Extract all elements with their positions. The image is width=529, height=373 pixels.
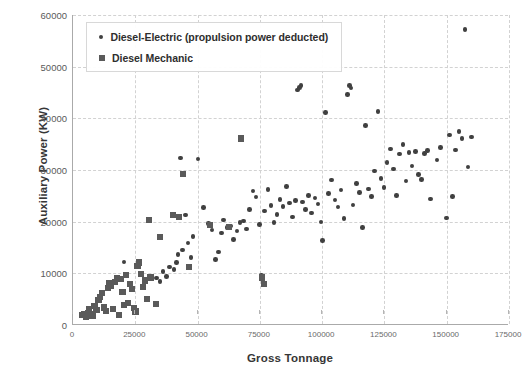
data-point-series-0 [319, 220, 324, 225]
gridline-horizontal [73, 170, 508, 171]
data-point-series-0 [290, 215, 295, 220]
data-point-series-0 [241, 219, 246, 224]
data-point-series-0 [191, 234, 196, 239]
data-point-series-1 [226, 224, 232, 230]
data-point-series-1 [157, 234, 163, 240]
data-point-series-0 [180, 248, 185, 253]
data-point-series-0 [262, 209, 267, 214]
gridline-vertical [447, 15, 448, 324]
data-point-series-0 [269, 203, 274, 208]
data-point-series-0 [469, 135, 474, 140]
data-point-series-0 [158, 279, 163, 284]
data-point-series-0 [164, 274, 169, 279]
data-point-series-0 [174, 260, 179, 265]
legend-item-label: Diesel-Electric (propulsion power deduct… [110, 31, 328, 43]
x-tick-mark [383, 310, 384, 314]
data-point-series-1 [144, 296, 150, 302]
data-point-series-0 [176, 252, 181, 257]
data-point-series-1 [116, 312, 122, 318]
gridline-vertical [509, 15, 510, 324]
data-point-series-1 [93, 307, 99, 313]
data-point-series-1 [136, 259, 142, 265]
x-tick-mark [321, 310, 322, 314]
data-point-series-1 [103, 308, 109, 314]
data-point-series-0 [213, 257, 218, 262]
square-marker-icon [99, 55, 105, 61]
x-tick-mark [197, 310, 198, 314]
data-point-series-0 [210, 228, 215, 233]
legend-item-diesel-electric: Diesel-Electric (propulsion power deduct… [99, 29, 328, 45]
x-tick-mark [134, 310, 135, 314]
y-tick-label: 20000 [11, 216, 67, 227]
data-point-series-0 [272, 220, 277, 225]
data-point-series-0 [306, 193, 311, 198]
data-point-series-0 [385, 160, 390, 165]
data-point-series-1 [259, 274, 265, 280]
circle-marker-icon [99, 35, 103, 39]
data-point-series-1 [147, 274, 153, 280]
x-tick-mark [508, 310, 509, 314]
data-point-series-1 [261, 281, 267, 287]
data-point-series-0 [342, 216, 347, 221]
data-point-series-0 [287, 201, 292, 206]
data-point-series-0 [329, 178, 334, 183]
data-point-series-0 [435, 158, 440, 163]
data-point-series-1 [153, 301, 159, 307]
data-point-series-0 [391, 167, 396, 172]
data-point-series-0 [394, 193, 399, 198]
data-point-series-1 [129, 286, 135, 292]
data-point-series-0 [379, 176, 384, 181]
data-point-series-0 [351, 203, 356, 208]
x-tick-label: 0 [42, 330, 102, 339]
data-point-series-0 [284, 184, 289, 189]
data-point-series-0 [275, 212, 280, 217]
data-point-series-0 [366, 187, 371, 192]
y-tick-label: 40000 [11, 113, 67, 124]
y-tick-label: 0 [11, 320, 67, 331]
data-point-series-0 [453, 148, 458, 153]
data-point-series-0 [231, 237, 236, 242]
x-tick-label: 50000 [167, 330, 227, 339]
data-point-series-0 [401, 142, 406, 147]
data-point-series-0 [397, 152, 402, 157]
data-point-series-0 [178, 156, 183, 161]
data-point-series-0 [309, 211, 314, 216]
data-point-series-0 [339, 188, 344, 193]
data-point-series-0 [388, 147, 393, 152]
data-point-series-0 [183, 213, 188, 218]
x-tick-label: 100000 [291, 330, 351, 339]
data-point-series-0 [372, 169, 377, 174]
data-point-series-0 [336, 205, 341, 210]
data-point-series-0 [419, 177, 424, 182]
data-point-series-0 [460, 136, 465, 141]
data-point-series-0 [404, 179, 409, 184]
data-point-series-1 [186, 264, 192, 270]
legend-item-label: Diesel Mechanic [112, 52, 193, 64]
data-point-series-1 [176, 214, 182, 220]
data-point-series-0 [333, 198, 338, 203]
x-tick-label: 125000 [353, 330, 413, 339]
x-tick-mark [72, 310, 73, 314]
data-point-series-0 [363, 123, 368, 128]
data-point-series-0 [413, 149, 418, 154]
data-point-series-0 [463, 27, 468, 32]
data-point-series-0 [428, 197, 433, 202]
data-point-series-0 [300, 200, 305, 205]
x-tick-label: 150000 [416, 330, 476, 339]
x-tick-mark [259, 310, 260, 314]
data-point-series-0 [326, 191, 331, 196]
y-tick-label: 10000 [11, 268, 67, 279]
gridline-vertical [384, 15, 385, 324]
data-point-series-0 [447, 133, 452, 138]
data-point-series-1 [123, 272, 129, 278]
data-point-series-0 [382, 185, 387, 190]
data-point-series-0 [425, 148, 430, 153]
data-point-series-0 [251, 189, 256, 194]
data-point-series-0 [369, 194, 374, 199]
data-point-series-0 [345, 92, 350, 97]
data-point-series-1 [140, 284, 146, 290]
data-point-series-0 [278, 197, 283, 202]
data-point-series-0 [376, 109, 381, 114]
data-point-series-0 [216, 250, 221, 255]
y-tick-label: 30000 [11, 165, 67, 176]
